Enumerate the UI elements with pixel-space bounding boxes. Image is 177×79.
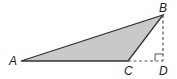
right-angle-marker: [155, 54, 163, 61]
triangle-diagram: A B C D: [0, 0, 177, 79]
label-a: A: [8, 54, 17, 68]
label-c: C: [124, 64, 133, 78]
label-d: D: [159, 64, 168, 78]
triangle-abc: [21, 15, 163, 61]
label-b: B: [159, 1, 167, 15]
